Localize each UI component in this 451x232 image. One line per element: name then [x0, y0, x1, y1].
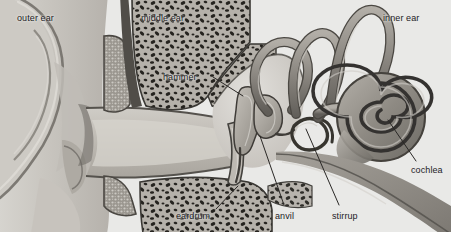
label-middle-ear: middle ear [141, 13, 184, 23]
ear-cross-section-illustration [0, 0, 451, 232]
label-cochlea: cochlea [411, 165, 443, 175]
label-hammer: hammer [163, 72, 197, 82]
label-anvil: anvil [275, 211, 294, 221]
label-stirrup: stirrup [332, 211, 358, 221]
label-inner-ear: inner ear [383, 13, 419, 23]
label-eardrum: eardrum [176, 211, 210, 221]
label-outer-ear: outer ear [17, 13, 54, 23]
ear-anatomy-figure: outer ear middle ear inner ear hammer ea… [0, 0, 451, 232]
